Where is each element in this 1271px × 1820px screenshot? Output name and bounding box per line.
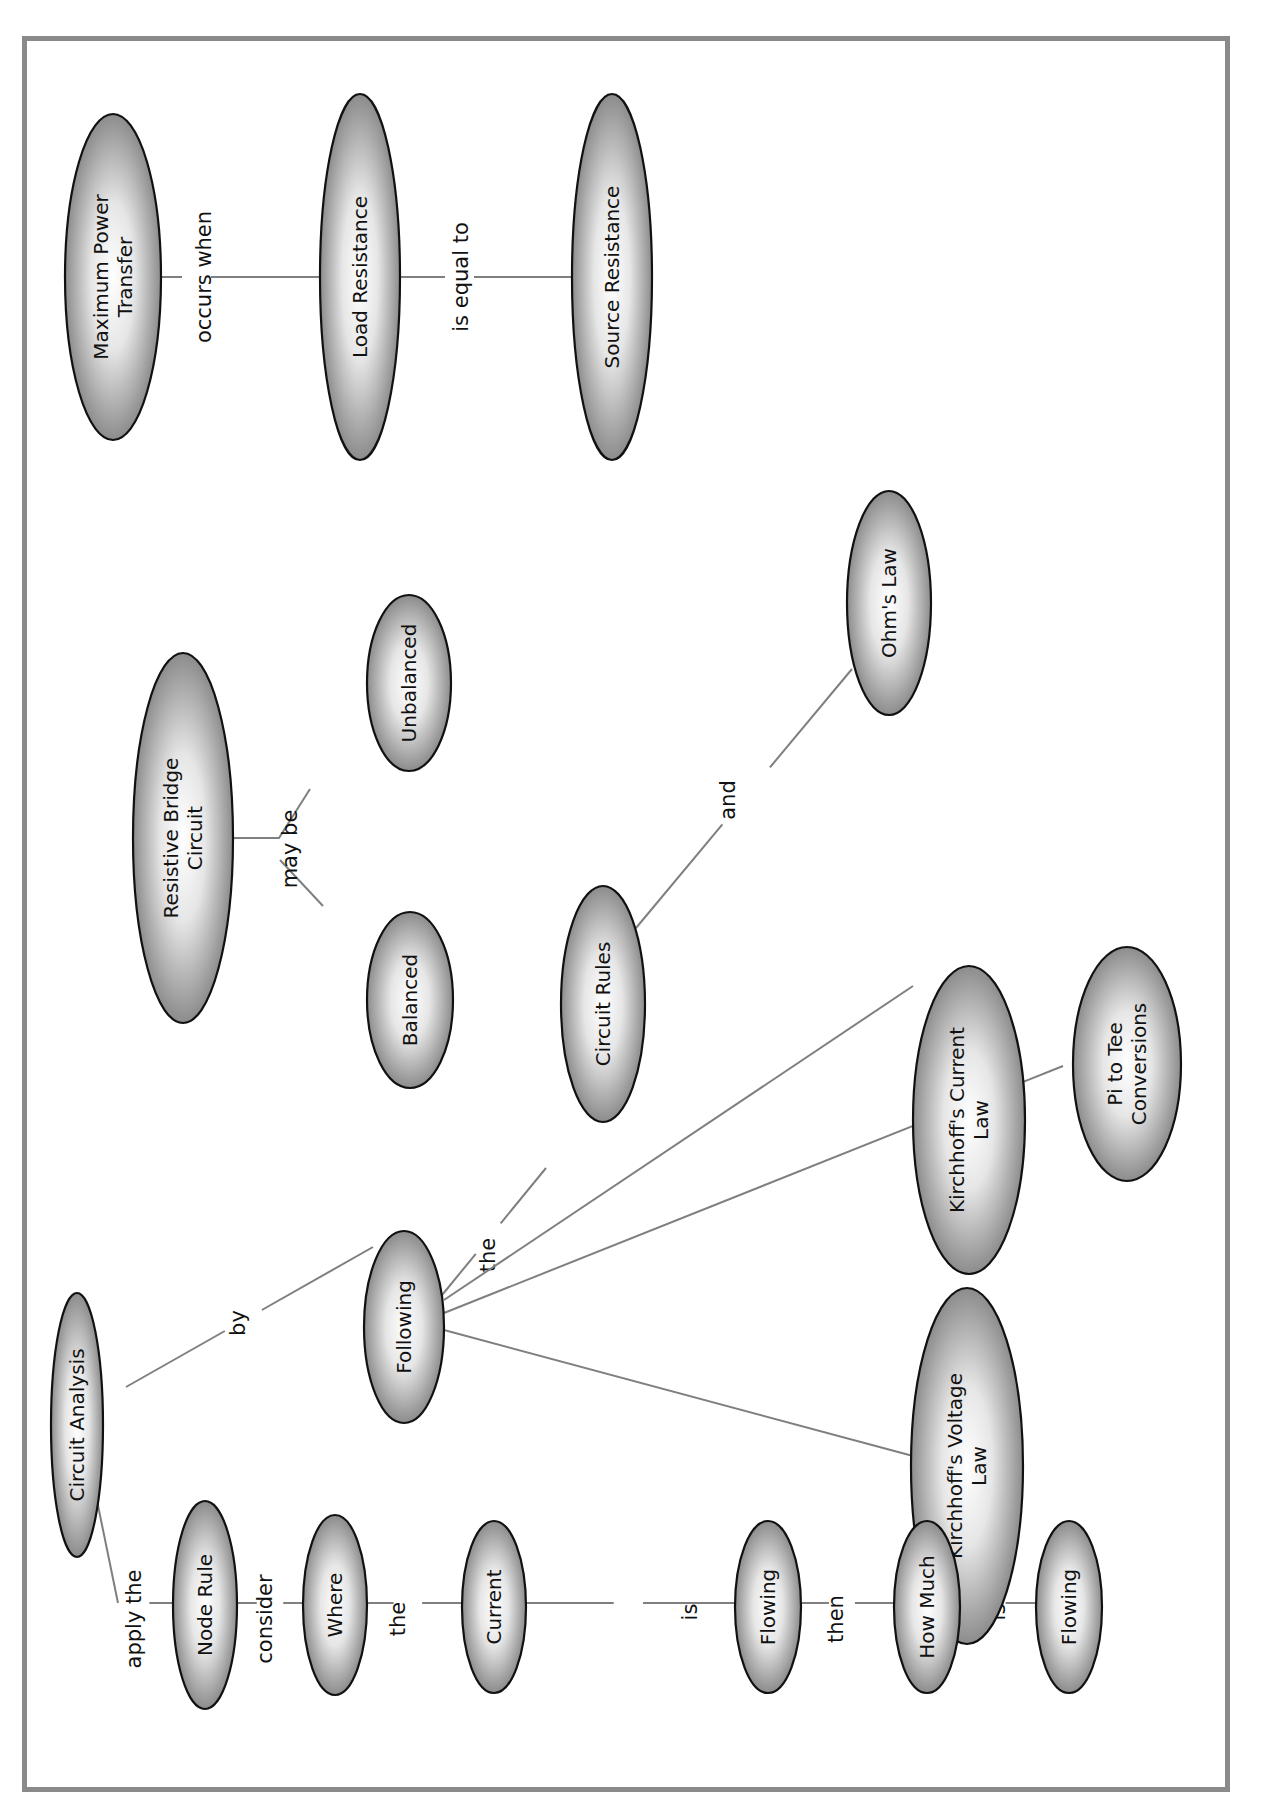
connector-10: consider — [237, 1574, 303, 1664]
concept-node-max-power[interactable]: Maximum PowerTransfer — [65, 114, 161, 440]
concept-node-unbalanced[interactable]: Unbalanced — [367, 595, 451, 771]
connector-11: the — [367, 1602, 462, 1636]
connector-segment — [501, 1168, 546, 1223]
connector-segment — [126, 1331, 225, 1387]
connector-segment — [636, 824, 722, 928]
node-label: Pi to Tee — [1103, 1022, 1127, 1105]
concept-node-ohms[interactable]: Ohm's Law — [847, 491, 931, 715]
concept-node-circuit-rules[interactable]: Circuit Rules — [561, 886, 645, 1122]
connector-8 — [444, 1330, 913, 1456]
link-label: may be — [278, 810, 302, 889]
concept-node-bridge[interactable]: Resistive BridgeCircuit — [133, 653, 233, 1023]
concept-node-flowing-1[interactable]: Flowing — [735, 1521, 801, 1693]
node-label: Current — [482, 1569, 506, 1644]
concept-node-circuit-analysis[interactable]: Circuit Analysis — [51, 1293, 103, 1557]
link-label: apply the — [122, 1570, 146, 1669]
node-label: Load Resistance — [348, 196, 372, 358]
node-label: Kirchhoff's Voltage — [943, 1373, 967, 1559]
node-label: Law — [969, 1100, 993, 1140]
connector-segment — [444, 986, 913, 1300]
link-label: and — [716, 780, 740, 820]
link-label: consider — [253, 1574, 277, 1664]
node-label: Circuit — [183, 806, 207, 871]
connector-segment — [438, 1254, 476, 1300]
node-label: Circuit Analysis — [65, 1348, 89, 1501]
concept-node-balanced[interactable]: Balanced — [367, 912, 453, 1088]
connector-5: and — [636, 669, 852, 928]
node-label: Law — [967, 1446, 991, 1486]
node-label: Transfer — [113, 236, 137, 318]
concept-node-flowing-2[interactable]: Flowing — [1036, 1521, 1102, 1693]
link-label: the — [476, 1238, 500, 1272]
connector-1: is equal to — [400, 222, 572, 331]
concept-node-node-rule[interactable]: Node Rule — [173, 1501, 237, 1709]
node-label: Balanced — [398, 954, 422, 1046]
concept-node-following[interactable]: Following — [364, 1231, 444, 1423]
concept-node-pi-tee[interactable]: Pi to TeeConversions — [1073, 947, 1181, 1181]
link-label: then — [824, 1595, 848, 1643]
connector-13: then — [801, 1595, 894, 1643]
node-label: Following — [392, 1280, 416, 1374]
node-label: Kirchhoff's Current — [945, 1027, 969, 1213]
connector-6 — [444, 986, 913, 1300]
connector-2: may be — [226, 789, 323, 906]
concept-node-kcl[interactable]: Kirchhoff's CurrentLaw — [913, 966, 1025, 1274]
connector-segment — [262, 1247, 373, 1310]
connector-0: occurs when — [161, 211, 320, 343]
link-label: by — [226, 1310, 250, 1336]
node-label: How Much — [915, 1555, 939, 1659]
concept-node-load-res[interactable]: Load Resistance — [320, 94, 400, 460]
connector-3: by — [126, 1247, 373, 1387]
link-label: is — [678, 1604, 702, 1621]
node-label: Circuit Rules — [591, 942, 615, 1067]
concept-map: occurs whenis equal tomay bebytheandappl… — [0, 0, 1271, 1820]
node-label: Unbalanced — [397, 624, 421, 743]
link-label: the — [386, 1602, 410, 1636]
node-label: Flowing — [756, 1569, 780, 1646]
node-label: Source Resistance — [600, 186, 624, 369]
connector-segment — [770, 669, 852, 767]
node-label: Maximum Power — [89, 194, 113, 360]
connector-12: is — [526, 1603, 735, 1620]
node-label: Where — [323, 1573, 347, 1638]
connector-segment — [444, 1330, 913, 1456]
node-label: Node Rule — [193, 1554, 217, 1656]
concept-node-where[interactable]: Where — [303, 1515, 367, 1695]
concept-node-current[interactable]: Current — [462, 1521, 526, 1693]
node-label: Conversions — [1127, 1003, 1151, 1126]
node-label: Ohm's Law — [877, 548, 901, 658]
concept-node-how-much[interactable]: How Much — [894, 1521, 960, 1693]
node-label: Flowing — [1057, 1569, 1081, 1646]
link-label: is equal to — [449, 222, 473, 331]
connector-4: the — [438, 1168, 546, 1300]
node-label: Resistive Bridge — [159, 758, 183, 919]
concept-node-source-res[interactable]: Source Resistance — [572, 94, 652, 460]
connector-9: apply the — [94, 1486, 175, 1668]
